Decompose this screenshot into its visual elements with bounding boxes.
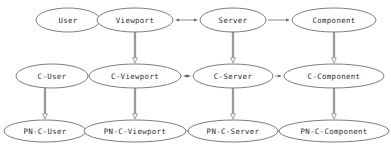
node-label: C-Server — [214, 72, 253, 81]
node-label: PN-C-Viewport — [104, 127, 166, 136]
node-pn-c-user[interactable]: PN-C-User — [4, 120, 86, 142]
horizontal-edge-arrowhead-reverse-icon — [175, 18, 179, 21]
vertical-edge-arrowhead-icon — [332, 114, 337, 119]
node-label: PN-C-Server — [207, 127, 260, 136]
node-viewport[interactable]: Viewport — [97, 8, 173, 32]
node-pn-c-component[interactable]: PN-C-Component — [279, 120, 389, 142]
node-label: User — [58, 16, 77, 25]
vertical-edge-cserver-to-pncserver — [231, 88, 236, 119]
node-label: C-Viewport — [111, 72, 159, 81]
node-label: C-User — [38, 72, 67, 81]
node-layer: UserViewportServerComponentC-UserC-Viewp… — [4, 8, 389, 142]
node-label: PN-C-User — [23, 127, 66, 136]
node-label: C-Component — [308, 72, 361, 81]
node-c-component[interactable]: C-Component — [284, 64, 384, 88]
node-user[interactable]: User — [36, 8, 100, 32]
diagram-graph: UserViewportServerComponentC-UserC-Viewp… — [0, 0, 391, 153]
horizontal-edge-viewport-to-server — [175, 18, 198, 21]
vertical-edge-cuser-to-pncuser — [43, 88, 48, 119]
vertical-edge-arrowhead-icon — [332, 58, 337, 63]
node-server[interactable]: Server — [200, 8, 266, 32]
vertical-edge-server-to-cserver — [231, 32, 236, 63]
vertical-edge-arrowhead-icon — [133, 58, 138, 63]
vertical-edge-arrowhead-icon — [231, 114, 236, 119]
vertical-edge-arrowhead-icon — [133, 114, 138, 119]
node-c-viewport[interactable]: C-Viewport — [89, 64, 181, 88]
node-label: PN-C-Component — [300, 127, 367, 136]
horizontal-edge-cviewport-to-cserver — [183, 74, 191, 77]
node-label: Server — [219, 16, 248, 25]
node-c-user[interactable]: C-User — [16, 64, 88, 88]
node-pn-c-server[interactable]: PN-C-Server — [188, 120, 278, 142]
horizontal-edge-arrowhead-icon — [278, 74, 282, 77]
vertical-edge-cviewport-to-pncviewport — [133, 88, 138, 119]
horizontal-edge-server-to-component — [268, 18, 290, 21]
node-label: Viewport — [116, 16, 154, 25]
horizontal-edge-cserver-to-ccomponent — [275, 74, 282, 77]
vertical-edge-component-to-ccomponent — [332, 32, 337, 63]
horizontal-edge-arrowhead-icon — [286, 18, 290, 21]
vertical-edge-arrowhead-icon — [231, 58, 236, 63]
horizontal-edge-arrowhead-reverse-icon — [183, 74, 187, 77]
diagram-canvas: UserViewportServerComponentC-UserC-Viewp… — [0, 0, 391, 153]
horizontal-edge-arrowhead-icon — [187, 74, 191, 77]
node-pn-c-viewport[interactable]: PN-C-Viewport — [84, 120, 186, 142]
horizontal-edge-arrowhead-icon — [194, 18, 198, 21]
node-label: Component — [312, 16, 355, 25]
node-component[interactable]: Component — [292, 8, 376, 32]
node-c-server[interactable]: C-Server — [193, 64, 273, 88]
vertical-edge-viewport-to-cviewport — [133, 32, 138, 63]
vertical-edge-ccomponent-to-pnccomponent — [332, 88, 337, 119]
vertical-edge-arrowhead-icon — [43, 114, 48, 119]
